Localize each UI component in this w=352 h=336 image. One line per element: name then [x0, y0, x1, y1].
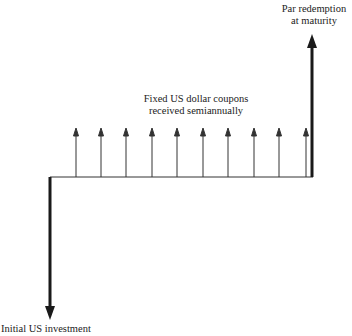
par-redemption-label: Par redemption at maturity — [270, 3, 352, 27]
coupon-arrow — [277, 128, 282, 177]
initial-investment-arrow — [45, 177, 55, 320]
coupon-arrow — [252, 128, 257, 177]
coupon-arrow — [99, 128, 104, 177]
initial-investment-label: Initial US investment — [1, 323, 91, 335]
coupons-label-line2: received semiannually — [130, 105, 262, 117]
coupon-arrows — [74, 128, 309, 177]
par-redemption-arrow — [307, 34, 317, 177]
par-redemption-label-line1: Par redemption — [270, 3, 352, 15]
coupon-arrow — [201, 128, 206, 177]
cash-flow-diagram — [0, 0, 352, 336]
coupon-arrow — [74, 128, 79, 177]
coupon-arrow — [226, 128, 231, 177]
par-redemption-label-line2: at maturity — [270, 15, 352, 27]
coupon-arrow — [304, 128, 309, 177]
coupon-arrow — [124, 128, 129, 177]
coupon-arrow — [175, 128, 180, 177]
coupons-label: Fixed US dollar coupons received semiann… — [130, 93, 262, 117]
coupons-label-line1: Fixed US dollar coupons — [130, 93, 262, 105]
coupon-arrow — [150, 128, 155, 177]
